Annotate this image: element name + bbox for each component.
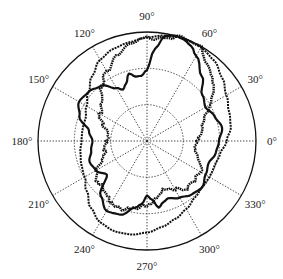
angle-label-30: 30° — [248, 73, 263, 85]
angle-label-300: 300° — [199, 243, 220, 255]
angle-label-270: 270° — [137, 260, 158, 272]
grid-spoke-60 — [147, 47, 202, 141]
angle-label-90: 90° — [139, 10, 154, 22]
grid-spoke-30 — [147, 87, 241, 142]
grid-spoke-210 — [53, 141, 147, 196]
trace-dotted — [96, 36, 214, 211]
angle-label-180: 180° — [12, 135, 33, 147]
grid-spoke-300 — [147, 141, 202, 235]
angle-label-330: 330° — [245, 198, 266, 210]
angle-label-120: 120° — [74, 27, 95, 39]
data-traces — [78, 36, 230, 235]
polar-chart: 0°30°60°90°120°150°180°210°240°270°300°3… — [0, 0, 283, 279]
angle-label-60: 60° — [202, 27, 217, 39]
angular-grid-spokes — [38, 32, 256, 250]
angle-label-240: 240° — [74, 243, 95, 255]
angle-label-0: 0° — [267, 135, 277, 147]
angle-label-210: 210° — [28, 198, 49, 210]
angle-label-150: 150° — [28, 73, 49, 85]
